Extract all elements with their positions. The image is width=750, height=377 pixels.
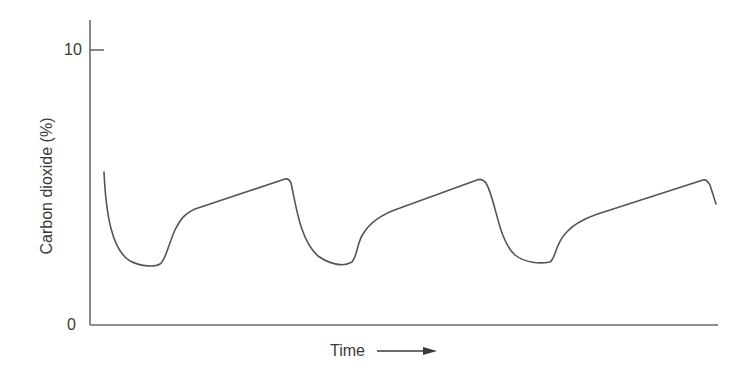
x-axis-label-group: Time [330,343,437,359]
chart-plot [0,0,750,377]
y-tick-label-10: 10 [64,42,82,58]
co2-curve [104,172,716,266]
y-tick-label-0: 0 [67,317,76,333]
y-axis-label: Carbon dioxide (%) [39,111,55,261]
arrow-right-icon [377,346,437,356]
x-axis-label: Time [330,343,365,359]
